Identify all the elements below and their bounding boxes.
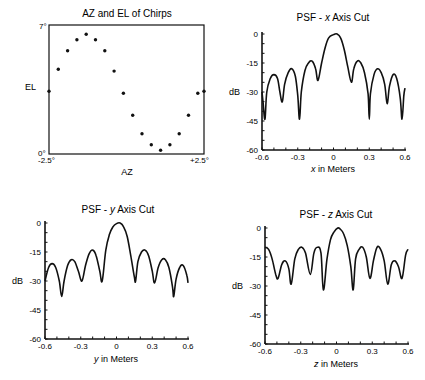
- x-tick-label: 0.6: [399, 153, 411, 162]
- data-point: [131, 114, 134, 117]
- y-tick-max: 7°: [39, 22, 47, 31]
- y-tick-label: 0: [37, 219, 42, 228]
- data-point: [150, 143, 153, 146]
- psf-curve: [262, 34, 405, 120]
- x-tick-label: 0: [331, 153, 336, 162]
- chart-title: PSF - z Axis Cut: [300, 209, 373, 220]
- x-tick-max: +2.5°: [190, 156, 209, 165]
- x-tick-label: -0.6: [38, 342, 52, 351]
- y-tick-label: -15: [246, 59, 258, 68]
- y-tick-label: -30: [29, 277, 41, 286]
- y-tick-label: -30: [246, 88, 258, 97]
- data-point: [187, 114, 190, 117]
- data-point: [75, 38, 78, 41]
- data-point: [103, 49, 106, 52]
- y-axis-label: dB: [232, 281, 243, 291]
- y-tick-label: -45: [246, 117, 258, 126]
- x-axis-label: y in Meters: [93, 354, 139, 364]
- y-tick-label: -15: [29, 248, 41, 257]
- x-tick-label: 0: [114, 342, 119, 351]
- x-tick-label: -0.3: [74, 342, 88, 351]
- x-axis-label: z in Meters: [313, 359, 359, 369]
- y-tick-label: 0: [257, 224, 262, 233]
- y-axis-label: EL: [25, 82, 36, 92]
- x-tick-label: -0.3: [294, 347, 308, 356]
- axes: 0-15-30-45-60-0.6-0.300.30.6: [249, 224, 414, 356]
- scatter-points: [47, 33, 205, 153]
- data-point: [159, 149, 162, 152]
- y-tick-label: -45: [249, 311, 261, 320]
- chart-title: PSF - y Axis Cut: [82, 204, 155, 215]
- y-tick-label: -30: [249, 282, 261, 291]
- figure-canvas: AZ and EL of Chirps 7° 0° -2.5° +2.5° AZ…: [0, 0, 425, 380]
- chart-title: PSF - x Axis Cut: [297, 12, 370, 23]
- x-tick-label: 0.3: [147, 342, 159, 351]
- x-tick-label: 0: [334, 347, 339, 356]
- data-point: [196, 92, 199, 95]
- x-tick-label: 0.3: [367, 347, 379, 356]
- chart-psf-x-cut: PSF - x Axis Cut 0-15-30-45-60-0.6-0.300…: [229, 12, 411, 174]
- data-point: [94, 38, 97, 41]
- x-tick-label: -0.6: [258, 347, 272, 356]
- x-tick-label: -0.6: [255, 153, 269, 162]
- data-point: [178, 132, 181, 135]
- psf-curve: [45, 223, 188, 297]
- plot-frame: [49, 25, 204, 154]
- data-point: [85, 33, 88, 36]
- chart-title: AZ and EL of Chirps: [82, 8, 172, 19]
- data-point: [57, 68, 60, 71]
- y-tick-label: 0: [254, 30, 259, 39]
- chart-azel: AZ and EL of Chirps 7° 0° -2.5° +2.5° AZ…: [25, 8, 209, 177]
- chart-psf-z-cut: PSF - z Axis Cut 0-15-30-45-60-0.6-0.300…: [232, 209, 414, 369]
- x-tick-label: 0.6: [182, 342, 194, 351]
- data-point: [202, 90, 205, 93]
- data-point: [122, 92, 125, 95]
- data-point: [140, 132, 143, 135]
- x-tick-label: 0.6: [402, 347, 414, 356]
- data-point: [112, 69, 115, 72]
- data-point: [168, 143, 171, 146]
- data-point: [47, 90, 50, 93]
- chart-psf-y-cut: PSF - y Axis Cut 0-15-30-45-60-0.6-0.300…: [12, 204, 194, 364]
- y-tick-label: -45: [29, 306, 41, 315]
- x-tick-min: -2.5°: [38, 156, 55, 165]
- axes: 0-15-30-45-60-0.6-0.300.30.6: [29, 219, 194, 351]
- y-axis-label: dB: [229, 87, 240, 97]
- y-tick-label: -15: [249, 253, 261, 262]
- data-point: [66, 49, 69, 52]
- x-axis-label: AZ: [121, 167, 133, 177]
- y-axis-label: dB: [12, 276, 23, 286]
- x-axis-label: x in Meters: [310, 164, 356, 174]
- psf-curve: [265, 228, 408, 290]
- x-tick-label: 0.3: [364, 153, 376, 162]
- x-tick-label: -0.3: [291, 153, 305, 162]
